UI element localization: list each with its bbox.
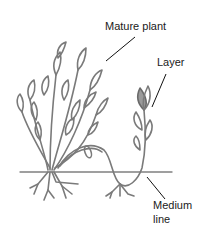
plant-illustration: [0, 0, 210, 232]
layer-stem: [58, 110, 145, 186]
layer-label: Layer: [157, 56, 185, 69]
line-label: line: [153, 213, 170, 226]
layering-diagram: Mature plant Layer Medium line: [0, 0, 210, 232]
medium-line-leader: [147, 177, 165, 199]
medium-label: Medium: [153, 199, 192, 212]
layer-leader: [152, 74, 166, 107]
mature-plant-label: Mature plant: [105, 20, 166, 33]
mature-plant-leader: [106, 37, 135, 61]
mature-plant: [17, 42, 108, 200]
